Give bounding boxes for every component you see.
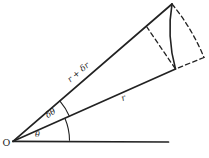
horizontal-reference-line <box>13 141 169 142</box>
r-plus-dr-label: r + δr <box>65 59 92 84</box>
path-arc <box>170 4 176 69</box>
delta-r-segment-dashed <box>176 58 205 70</box>
r-label: r <box>120 92 128 103</box>
origin-label: O <box>3 137 11 148</box>
radius-r-plus-dr-line <box>13 4 172 141</box>
diagram-canvas: O θ δθ r r + δr <box>0 0 209 158</box>
polar-coordinates-diagram: O θ δθ r r + δr <box>0 0 209 158</box>
delta-theta-angle-arc <box>60 101 70 117</box>
theta-label: θ <box>35 130 40 139</box>
delta-theta-label: δθ <box>43 106 57 120</box>
outer-arc-dashed <box>172 4 204 58</box>
theta-angle-arc <box>65 119 70 141</box>
